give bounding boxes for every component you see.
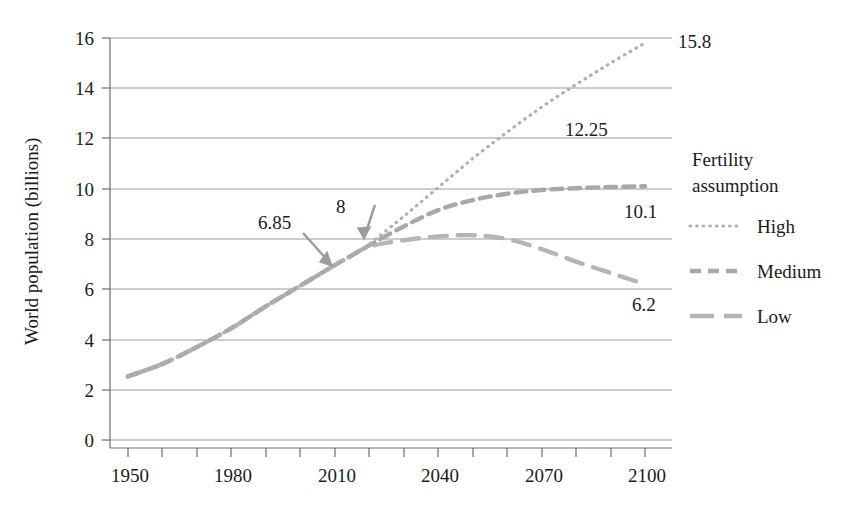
y-tick-label-6: 6: [85, 279, 95, 300]
y-tick-label-10: 10: [75, 179, 94, 200]
y-tick-label-2: 2: [85, 380, 95, 401]
x-tick-label-1950: 1950: [111, 465, 149, 486]
value-label-12-25: 12.25: [565, 119, 608, 140]
annotations: 6.85 8: [258, 196, 375, 266]
value-label-10-1: 10.1: [624, 201, 657, 222]
annotation-label-8: 8: [336, 196, 346, 217]
legend-label-medium: Medium: [757, 261, 822, 282]
x-tick-label-2070: 2070: [525, 465, 563, 486]
gridlines: [110, 38, 672, 440]
y-tick-label-8: 8: [85, 229, 95, 250]
x-tick-labels: 1950 1980 2010 2040 2070 2100: [111, 465, 666, 486]
y-tick-label-14: 14: [75, 78, 95, 99]
y-tick-label-16: 16: [75, 28, 94, 49]
y-tick-label-4: 4: [85, 330, 95, 351]
value-label-15-8: 15.8: [678, 31, 711, 52]
legend: Fertility assumption High Medium Low: [690, 149, 822, 327]
legend-item-medium[interactable]: Medium: [690, 261, 822, 282]
annotation-label-6-85: 6.85: [258, 212, 291, 233]
y-axis-title: World population (billions): [21, 138, 43, 345]
x-tick-label-2010: 2010: [318, 465, 356, 486]
x-tick-label-1980: 1980: [214, 465, 252, 486]
x-axis: [110, 448, 672, 457]
series-line-low: [128, 235, 645, 376]
y-tick-labels: 16 14 12 10 8 6 4 2 0: [75, 28, 95, 451]
series-value-labels: 15.8 12.25 10.1 6.2: [565, 31, 711, 315]
series-lines: [128, 43, 645, 376]
legend-item-low[interactable]: Low: [690, 306, 792, 327]
chart-svg: 16 14 12 10 8 6 4 2 0 World population (…: [0, 0, 859, 505]
legend-title-line2: assumption: [692, 175, 779, 196]
legend-label-high: High: [757, 216, 796, 237]
y-tick-label-12: 12: [75, 128, 94, 149]
series-line-medium: [128, 186, 645, 376]
legend-item-high[interactable]: High: [690, 216, 796, 237]
value-label-6-2: 6.2: [632, 294, 656, 315]
x-tick-label-2100: 2100: [628, 465, 666, 486]
y-tick-label-0: 0: [85, 430, 95, 451]
y-axis: [102, 38, 110, 448]
x-tick-label-2040: 2040: [421, 465, 459, 486]
legend-title-line1: Fertility: [692, 149, 754, 170]
world-population-projection-chart: 16 14 12 10 8 6 4 2 0 World population (…: [0, 0, 859, 505]
annotation-arrowhead-8: [358, 227, 370, 239]
series-line-high: [128, 43, 645, 376]
legend-label-low: Low: [757, 306, 792, 327]
